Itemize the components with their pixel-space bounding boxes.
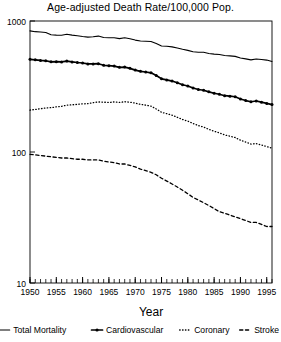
chart-legend[interactable]: Total MortalityCardiovascularCoronaryStr… (0, 325, 279, 335)
svg-text:Year: Year (139, 305, 163, 319)
series-3 (30, 102, 272, 148)
series-2 (29, 58, 274, 106)
svg-text:1965: 1965 (99, 287, 118, 297)
series-4 (30, 154, 272, 226)
svg-text:100: 100 (12, 148, 26, 158)
svg-text:1980: 1980 (178, 287, 197, 297)
legend-label: Coronary (194, 325, 230, 335)
legend-label: Total Mortality (13, 325, 67, 335)
legend-label: Stroke (254, 325, 279, 335)
chart-plot: 1000100101950195519601965197019751980198… (0, 0, 281, 342)
svg-text:1000: 1000 (7, 17, 26, 27)
svg-text:1960: 1960 (73, 287, 92, 297)
legend-item-stroke[interactable]: Stroke (240, 325, 280, 335)
legend-item-coronary[interactable]: Coronary (180, 325, 231, 335)
x-axis-title: Year (139, 305, 163, 319)
svg-text:1990: 1990 (231, 287, 250, 297)
legend-item-cardiovascular[interactable]: Cardiovascular (92, 325, 164, 335)
legend-item-total-mortality[interactable]: Total Mortality (0, 325, 67, 335)
chart-container: Age-adjusted Death Rate/100,000 Pop. 100… (0, 0, 281, 342)
series-1 (30, 31, 272, 62)
plot-series (29, 31, 274, 227)
svg-text:1985: 1985 (205, 287, 224, 297)
svg-text:1995: 1995 (257, 287, 276, 297)
svg-text:1970: 1970 (126, 287, 145, 297)
svg-text:1955: 1955 (47, 287, 66, 297)
legend-label: Cardiovascular (106, 325, 163, 335)
svg-text:1975: 1975 (152, 287, 171, 297)
svg-text:1950: 1950 (21, 287, 40, 297)
